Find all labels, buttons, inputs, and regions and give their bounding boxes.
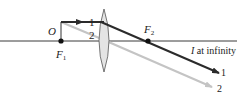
ray-2-start-label: 2	[89, 29, 95, 41]
focal-point-1-label: F1	[55, 48, 67, 62]
focal-point-1	[58, 38, 63, 43]
focal-point-2-label: F2	[143, 23, 155, 37]
object-label: O	[48, 25, 56, 37]
ray-2	[61, 22, 212, 87]
ray-1-end-label: 1	[221, 67, 226, 78]
ray-1-start-label: 1	[89, 16, 95, 28]
ray-2-end-label: 2	[217, 83, 222, 94]
ray-diagram: O F1 F2 1 2 I at infinity 1 2	[0, 0, 249, 99]
converging-lens	[99, 9, 109, 72]
focal-point-2	[145, 38, 150, 43]
image-label: I at infinity	[190, 45, 236, 56]
